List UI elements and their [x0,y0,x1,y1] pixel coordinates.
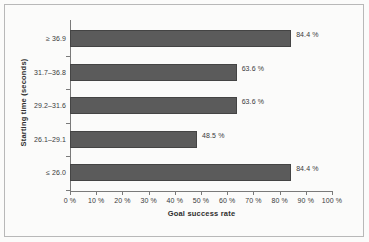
x-axis-tick [122,191,123,195]
x-axis-tick-label: 40 % [167,197,183,204]
x-axis-tick-label: 100 % [322,197,342,204]
x-axis-tick-label: 0 % [64,197,76,204]
bar-row: 84.4 % [70,156,332,190]
x-axis-tick [149,191,150,195]
x-axis-tick-label: 20 % [114,197,130,204]
y-axis-title: Starting time (seconds) [19,28,28,178]
x-axis-tick-label: 80 % [271,197,287,204]
x-axis-tick [70,191,71,195]
x-axis-tick-label: 50 % [193,197,209,204]
y-axis-tick-label: ≤ 26.0 [46,169,66,176]
bar-chart-figure: ≥ 36.931.7–36.829.2–31.626.1–29.1≤ 26.0 … [0,0,369,242]
bar-value-label: 63.6 % [242,65,264,72]
x-axis-tick [280,191,281,195]
x-axis-tick [306,191,307,195]
y-axis-tick-label: 26.1–29.1 [34,136,66,143]
bar-value-label: 63.6 % [242,98,264,105]
x-axis-tick [227,191,228,195]
x-axis-title: Goal success rate [70,209,333,218]
x-axis-tick [96,191,97,195]
bar-row: 48.5 % [70,123,332,157]
x-axis-tick [201,191,202,195]
y-axis-tick-label: ≥ 36.9 [46,35,66,42]
x-axis-tick [175,191,176,195]
bar [70,97,237,114]
bar [70,131,197,148]
bar [70,64,237,81]
bar-row: 63.6 % [70,56,332,90]
bar-value-label: 84.4 % [296,31,318,38]
x-axis-tick-label: 30 % [140,197,156,204]
y-axis-tick-labels: ≥ 36.931.7–36.829.2–31.626.1–29.1≤ 26.0 [0,22,66,190]
bar [70,30,291,47]
plot-area: 84.4 %63.6 %63.6 %48.5 %84.4 % [70,22,332,190]
x-axis-tick-label: 70 % [245,197,261,204]
x-axis-tick [332,191,333,195]
bar-value-label: 84.4 % [296,165,318,172]
bar-row: 63.6 % [70,89,332,123]
x-axis-tick-label: 90 % [298,197,314,204]
y-axis-tick-label: 29.2–31.6 [34,102,66,109]
bar-value-label: 48.5 % [202,132,224,139]
x-axis-tick [253,191,254,195]
x-axis-tick-label: 60 % [219,197,235,204]
bar-row: 84.4 % [70,22,332,56]
bar [70,164,291,181]
x-axis-tick-label: 10 % [88,197,104,204]
y-axis-tick-label: 31.7–36.8 [34,69,66,76]
